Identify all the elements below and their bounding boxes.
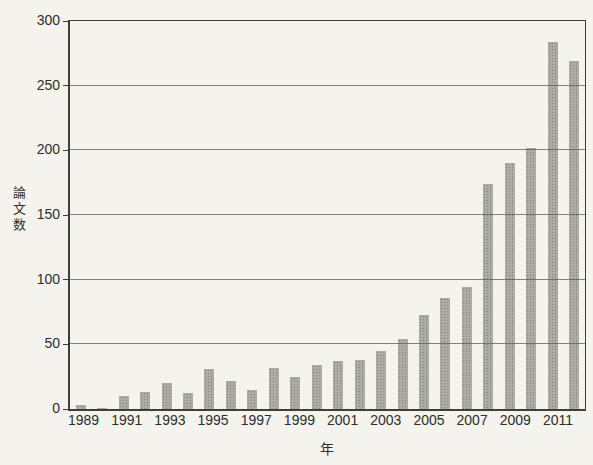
bar-1996 (226, 381, 236, 409)
bar-slot-2007 (456, 21, 477, 409)
x-slot-2006 (445, 412, 457, 428)
bar-slot-2009 (499, 21, 520, 409)
x-tick-label-1991: 1991 (111, 412, 142, 428)
bar-1991 (119, 396, 129, 409)
x-slot-1994 (186, 412, 198, 428)
gridline-200 (70, 149, 585, 150)
bar-slot-1997 (242, 21, 263, 409)
bar-slot-1995 (199, 21, 220, 409)
bar-slot-1989 (70, 21, 91, 409)
y-tick-250 (63, 85, 68, 86)
bar-slot-1994 (177, 21, 198, 409)
bars-row (70, 21, 585, 409)
x-tick-label-2005: 2005 (413, 412, 444, 428)
x-axis-title: 年 (68, 438, 585, 458)
bar-2001 (333, 361, 343, 409)
bar-2008 (483, 184, 493, 409)
x-slot-1996 (229, 412, 241, 428)
x-tick-label-1989: 1989 (68, 412, 99, 428)
bar-slot-2010 (521, 21, 542, 409)
y-tick-100 (63, 279, 68, 280)
x-tick-label-1993: 1993 (154, 412, 185, 428)
plot-area (68, 20, 586, 411)
bar-2012 (569, 61, 579, 409)
bar-1989 (76, 405, 86, 409)
y-tick-150 (63, 215, 68, 216)
bar-chart: 論文数 050100150200250300 19891991199319951… (0, 0, 593, 465)
y-tick-label-250: 250 (0, 77, 60, 93)
x-tick-label-2007: 2007 (457, 412, 488, 428)
bar-2005 (419, 315, 429, 409)
bar-slot-1992 (134, 21, 155, 409)
bar-1995 (204, 369, 214, 409)
bar-1999 (290, 377, 300, 409)
bar-slot-2011 (542, 21, 563, 409)
bar-1997 (247, 390, 257, 409)
bar-slot-2008 (478, 21, 499, 409)
gridline-100 (70, 279, 585, 280)
bar-slot-1999 (285, 21, 306, 409)
bar-slot-2012 (563, 21, 584, 409)
x-axis-labels: 1989199119931995199719992001200320052007… (68, 412, 585, 428)
y-tick-label-0: 0 (0, 400, 60, 416)
x-slot-2000 (315, 412, 327, 428)
x-slot-1992 (142, 412, 154, 428)
bar-2006 (440, 298, 450, 409)
gridline-250 (70, 85, 585, 86)
bar-2007 (462, 287, 472, 409)
bar-slot-1998 (263, 21, 284, 409)
bar-slot-1991 (113, 21, 134, 409)
y-tick-300 (63, 21, 68, 22)
bar-slot-2002 (349, 21, 370, 409)
x-slot-1998 (272, 412, 284, 428)
bar-1992 (140, 392, 150, 409)
x-slot-2008 (488, 412, 500, 428)
x-tick-label-2001: 2001 (327, 412, 358, 428)
y-tick-label-50: 50 (0, 335, 60, 351)
bar-slot-2001 (327, 21, 348, 409)
x-tick-label-2009: 2009 (500, 412, 531, 428)
bar-1998 (269, 368, 279, 409)
y-tick-label-200: 200 (0, 141, 60, 157)
x-tick-label-1995: 1995 (198, 412, 229, 428)
y-tick-200 (63, 150, 68, 151)
gridline-150 (70, 214, 585, 215)
y-tick-label-150: 150 (0, 206, 60, 222)
x-slot-2002 (358, 412, 370, 428)
bar-slot-2006 (435, 21, 456, 409)
gridline-50 (70, 343, 585, 344)
x-slot-2012 (573, 412, 585, 428)
bar-1993 (162, 383, 172, 409)
x-tick-label-2003: 2003 (370, 412, 401, 428)
bar-slot-1993 (156, 21, 177, 409)
x-slot-2010 (531, 412, 543, 428)
bar-slot-1990 (91, 21, 112, 409)
x-tick-label-1997: 1997 (241, 412, 272, 428)
bar-slot-2005 (413, 21, 434, 409)
bar-1994 (183, 393, 193, 409)
x-slot-1990 (99, 412, 111, 428)
bar-slot-1996 (220, 21, 241, 409)
bar-2009 (505, 163, 515, 409)
y-tick-label-100: 100 (0, 271, 60, 287)
y-tick-50 (63, 344, 68, 345)
bar-1990 (97, 408, 107, 409)
bar-slot-2003 (370, 21, 391, 409)
bar-2004 (398, 339, 408, 409)
bar-2002 (355, 360, 365, 409)
bar-slot-2000 (306, 21, 327, 409)
bar-2000 (312, 365, 322, 409)
y-axis-labels: 050100150200250300 (0, 20, 60, 408)
bar-2011 (548, 42, 558, 409)
x-tick-label-1999: 1999 (284, 412, 315, 428)
y-tick-0 (63, 409, 68, 410)
x-tick-label-2011: 2011 (543, 412, 573, 428)
x-slot-2004 (401, 412, 413, 428)
bar-2003 (376, 351, 386, 409)
bar-slot-2004 (392, 21, 413, 409)
y-tick-label-300: 300 (0, 12, 60, 28)
